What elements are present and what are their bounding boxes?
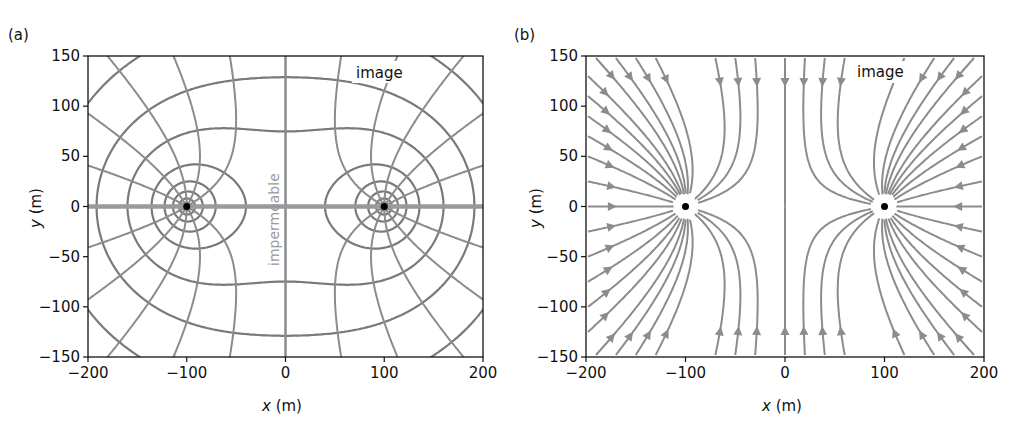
panel-a-impermeable-annotation: impermeable: [266, 173, 282, 266]
y-tick-label: 100: [549, 97, 578, 115]
x-tick-label: 0: [780, 364, 790, 382]
well-marker: [682, 203, 689, 210]
well-marker: [381, 203, 388, 210]
figure: (a) −200−1000100200150100500−50−100−150 …: [0, 0, 1016, 426]
y-tick-label: 100: [51, 97, 80, 115]
streamline: [698, 210, 758, 355]
arrowhead-icon: [954, 160, 966, 172]
panel-a-label: (a): [8, 26, 29, 44]
arrowhead-icon: [818, 78, 828, 88]
streamline: [596, 58, 684, 194]
streamline: [588, 218, 679, 307]
arrowhead-icon: [605, 160, 617, 172]
panel-b-image-annotation: image: [857, 63, 904, 81]
arrowhead-icon: [953, 202, 962, 211]
panel-b: (b) −200−1000100200150100500−50−100−150 …: [514, 26, 998, 415]
panel-a-ylabel: y (m): [27, 188, 45, 229]
arrowhead-icon: [955, 142, 967, 154]
y-tick-label: 150: [549, 47, 578, 65]
streamline: [897, 211, 982, 232]
streamline: [821, 211, 873, 355]
arrowhead-icon: [955, 263, 967, 275]
arrowhead-icon: [642, 73, 654, 85]
arrowhead-icon: [603, 263, 615, 275]
arrowhead-icon: [642, 328, 654, 340]
streamline: [588, 181, 673, 202]
x-tick-label: 200: [970, 364, 999, 382]
streamline: [588, 214, 676, 257]
y-tick-label: −100: [537, 298, 578, 316]
y-tick-label: −100: [39, 298, 80, 316]
arrowhead-icon: [752, 326, 761, 335]
arrowhead-icon: [733, 326, 743, 336]
panel-b-plot-area: [588, 58, 982, 355]
arrowhead-icon: [661, 74, 673, 86]
arrowhead-icon: [608, 202, 617, 211]
y-tick-label: 0: [568, 198, 578, 216]
panel-b-ticks: −200−1000100200150100500−50−100−150: [537, 47, 999, 382]
y-tick-label: 50: [559, 147, 578, 165]
arrowhead-icon: [799, 326, 808, 335]
arrowhead-icon: [799, 78, 808, 87]
arrowhead-icon: [915, 328, 927, 340]
x-tick-label: 100: [370, 364, 399, 382]
x-tick-label: 0: [281, 364, 291, 382]
arrowhead-icon: [889, 327, 901, 339]
y-tick-label: 50: [61, 147, 80, 165]
panel-a-xlabel: x (m): [261, 397, 302, 415]
streamline: [588, 211, 673, 232]
streamline: [891, 218, 982, 307]
well-marker: [881, 203, 888, 210]
arrowhead-icon: [781, 326, 790, 335]
arrowhead-icon: [781, 78, 790, 87]
arrowhead-icon: [752, 78, 761, 87]
x-tick-label: 200: [469, 364, 498, 382]
panel-a: (a) −200−1000100200150100500−50−100−150 …: [8, 26, 497, 415]
arrowhead-icon: [915, 73, 927, 85]
arrowhead-icon: [605, 241, 617, 253]
panel-a-image-annotation: image: [356, 64, 403, 82]
streamline: [698, 58, 758, 203]
panel-b-ylabel: y (m): [527, 188, 545, 229]
y-tick-label: −150: [537, 348, 578, 366]
y-tick-label: −150: [39, 348, 80, 366]
x-tick-label: −100: [665, 364, 706, 382]
y-tick-label: 0: [70, 198, 80, 216]
well-marker: [183, 203, 190, 210]
arrowhead-icon: [836, 326, 846, 336]
arrowhead-icon: [661, 327, 673, 339]
x-tick-label: −200: [565, 364, 606, 382]
arrowhead-icon: [818, 326, 828, 336]
y-tick-label: 150: [51, 47, 80, 65]
streamline: [897, 181, 982, 202]
arrowhead-icon: [603, 142, 615, 154]
panel-a-plot-area: [83, 51, 488, 362]
streamline: [895, 214, 983, 257]
y-tick-label: −50: [48, 248, 80, 266]
arrowhead-icon: [733, 77, 743, 87]
x-tick-label: 100: [870, 364, 899, 382]
arrowhead-icon: [836, 77, 846, 87]
y-tick-label: −50: [546, 248, 578, 266]
x-tick-label: −100: [166, 364, 207, 382]
arrowhead-icon: [954, 241, 966, 253]
panel-b-label: (b): [514, 26, 535, 44]
x-tick-label: −200: [67, 364, 108, 382]
panel-b-xlabel: x (m): [761, 397, 802, 415]
